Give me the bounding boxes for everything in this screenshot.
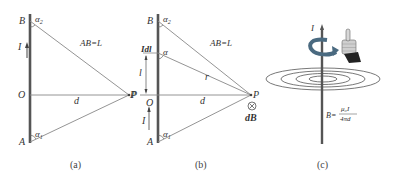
current-arrowhead-icon bbox=[320, 24, 324, 30]
panel-c: I B= μ₀I 4πd (c) bbox=[266, 23, 380, 171]
caption-c: (c) bbox=[317, 159, 328, 171]
panel-b: B α2 AB=L Idl α l r P O d P dB I α1 A (b… bbox=[129, 14, 259, 171]
line-bp bbox=[158, 21, 251, 95]
current-arrowhead-icon bbox=[25, 42, 29, 48]
label-i: I bbox=[141, 115, 146, 126]
label-db: dB bbox=[245, 112, 257, 123]
label-o: O bbox=[18, 89, 25, 100]
line-ap bbox=[30, 95, 129, 142]
label-a: A bbox=[18, 136, 26, 147]
label-b: B bbox=[19, 15, 25, 26]
label-p-left: P bbox=[129, 89, 136, 100]
field-formula: B= μ₀I 4πd bbox=[326, 105, 357, 123]
svg-text:4πd: 4πd bbox=[340, 115, 351, 123]
label-o: O bbox=[146, 97, 153, 108]
l-arrowhead-down-icon bbox=[145, 89, 148, 94]
curl-arrow-icon bbox=[310, 40, 339, 56]
caption-b: (b) bbox=[195, 159, 207, 171]
label-alpha2: α2 bbox=[35, 14, 43, 25]
label-relation: AB=L bbox=[79, 38, 102, 48]
svg-text:μ₀I: μ₀I bbox=[341, 105, 350, 113]
label-alpha1: α1 bbox=[163, 129, 171, 140]
point-p bbox=[250, 94, 253, 97]
label-r: r bbox=[205, 71, 209, 82]
label-idl: Idl bbox=[140, 44, 152, 54]
label-d: d bbox=[200, 95, 206, 106]
label-b: B bbox=[147, 15, 153, 26]
label-a: A bbox=[146, 136, 154, 147]
panel-a: B α2 I AB=L O d P α1 A (a) bbox=[17, 14, 137, 171]
svg-text:B=: B= bbox=[326, 111, 336, 120]
label-alpha: α bbox=[163, 47, 168, 57]
l-arrowhead-up-icon bbox=[145, 55, 148, 60]
label-i: I bbox=[310, 23, 315, 33]
label-alpha2: α2 bbox=[163, 14, 171, 25]
line-bp bbox=[30, 21, 129, 95]
label-i: I bbox=[17, 41, 22, 52]
label-d: d bbox=[74, 95, 80, 106]
label-alpha1: α1 bbox=[35, 129, 43, 140]
biot-savart-diagram: B α2 I AB=L O d P α1 A (a) bbox=[0, 0, 398, 183]
label-l: l bbox=[139, 67, 142, 78]
label-relation: AB=L bbox=[209, 38, 232, 48]
label-p: P bbox=[252, 89, 259, 100]
caption-a: (a) bbox=[70, 159, 81, 171]
thumbs-up-hand-icon bbox=[342, 29, 361, 63]
